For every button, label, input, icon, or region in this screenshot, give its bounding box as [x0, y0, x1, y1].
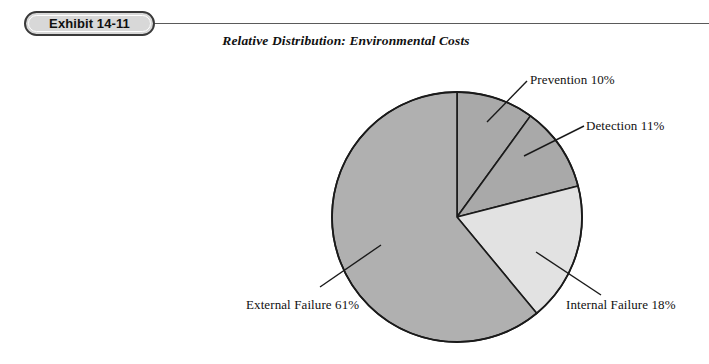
- pie-slices: [332, 92, 582, 342]
- exhibit-badge-label: Exhibit 14-11: [49, 16, 130, 31]
- slice-label-internal-failure: Internal Failure 18%: [566, 297, 676, 313]
- slice-label-prevention: Prevention 10%: [530, 72, 615, 88]
- exhibit-figure: Exhibit 14-11 Relative Distribution: Env…: [0, 0, 709, 364]
- slice-label-detection: Detection 11%: [586, 118, 664, 134]
- slice-label-external-failure: External Failure 61%: [246, 297, 359, 313]
